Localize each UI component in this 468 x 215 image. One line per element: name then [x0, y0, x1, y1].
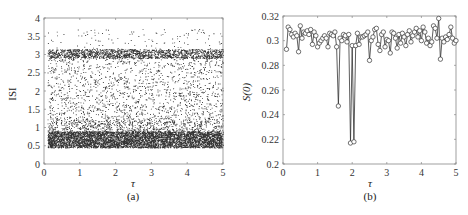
data-point-marker	[435, 36, 439, 40]
data-point-marker	[416, 35, 420, 39]
x-tick-label: 4	[419, 167, 424, 178]
x-tick-label: 1	[77, 167, 82, 178]
data-point-marker	[447, 32, 451, 36]
data-point-marker	[430, 40, 434, 44]
data-point-marker	[288, 27, 292, 31]
data-point-marker	[374, 26, 378, 30]
data-point-marker	[378, 48, 382, 52]
data-point-marker	[404, 43, 408, 47]
data-point-marker	[395, 46, 399, 50]
y-tick-label: 3.5	[28, 31, 41, 42]
x-tick-label: 0	[281, 167, 286, 178]
x-tick-label: 5	[454, 167, 459, 178]
y-tick-label: 4	[35, 13, 40, 24]
scatter-dots	[48, 29, 224, 148]
data-point-marker	[334, 45, 338, 49]
scatter-points	[48, 29, 224, 148]
data-point-marker	[352, 140, 356, 144]
data-point-marker	[386, 38, 390, 42]
data-point-marker	[421, 25, 425, 29]
data-point-marker	[419, 38, 423, 42]
data-point-marker	[398, 41, 402, 45]
data-point-marker	[371, 35, 375, 39]
y-tick-label: 3	[35, 49, 40, 60]
data-point-marker	[324, 36, 328, 40]
y-tick-label: 0.26	[262, 85, 280, 96]
data-point-marker	[295, 34, 299, 38]
y-tick-label: 1.5	[28, 104, 41, 115]
y-tick-label: 0.24	[262, 109, 280, 120]
x-tick-label: 2	[113, 167, 118, 178]
x-tick-label: 2	[350, 167, 355, 178]
y-tick-label: 0.3	[267, 35, 280, 46]
data-point-marker	[407, 29, 411, 33]
data-point-marker	[345, 40, 349, 44]
data-point-marker	[376, 42, 380, 46]
panel-b-s0-line: 012345 0.20.220.240.260.280.30.32 τ (b) …	[240, 11, 459, 204]
data-point-marker	[336, 104, 340, 108]
y-tick-label: 2	[35, 86, 40, 97]
data-point-marker	[437, 16, 441, 20]
figure: 012345 00.511.522.533.54 τ (a) ISI 01234…	[0, 0, 468, 215]
data-point-marker	[393, 36, 397, 40]
data-point-marker	[438, 57, 442, 61]
x-tick-label: 1	[315, 167, 320, 178]
x-tick-label: 3	[384, 167, 389, 178]
y-axis-label: ISI	[6, 87, 18, 101]
data-point-marker	[284, 47, 288, 51]
y-tick-label: 0.2	[267, 159, 280, 170]
data-point-marker	[449, 25, 453, 29]
data-point-marker	[433, 26, 437, 30]
data-point-marker	[366, 30, 370, 34]
y-tick-label: 1	[35, 122, 40, 133]
data-point-marker	[367, 58, 371, 62]
data-point-marker	[426, 36, 430, 40]
y-tick-label: 0.32	[262, 11, 280, 22]
data-point-marker	[298, 24, 302, 28]
data-point-marker	[355, 31, 359, 35]
data-point-marker	[333, 30, 337, 34]
data-point-marker	[445, 37, 449, 41]
y-tick-label: 0.28	[262, 60, 280, 71]
data-point-marker	[423, 30, 427, 34]
data-point-marker	[314, 34, 318, 38]
data-point-marker	[454, 38, 458, 42]
data-point-marker	[392, 31, 396, 35]
x-axis-label: τ	[131, 177, 136, 189]
data-point-marker	[383, 45, 387, 49]
panel-label: (a)	[127, 190, 140, 203]
x-axis-ticks: 012345	[42, 18, 226, 178]
y-tick-label: 0.22	[262, 134, 280, 145]
data-point-marker	[296, 50, 300, 54]
data-point-marker	[310, 42, 314, 46]
data-point-marker	[417, 29, 421, 33]
x-axis-label: τ	[368, 177, 373, 189]
data-point-marker	[347, 32, 351, 36]
data-point-marker	[340, 38, 344, 42]
x-tick-label: 0	[42, 167, 47, 178]
data-point-marker	[326, 45, 330, 49]
x-tick-label: 4	[185, 167, 190, 178]
panel-a-isi-scatter: 012345 00.511.522.533.54 τ (a) ISI	[6, 13, 226, 204]
y-tick-label: 2.5	[28, 67, 41, 78]
data-point-marker	[409, 40, 413, 44]
y-tick-label: 0	[35, 159, 40, 170]
y-tick-label: 0.5	[28, 140, 41, 151]
data-point-marker	[307, 32, 311, 36]
data-point-marker	[381, 30, 385, 34]
x-tick-label: 3	[149, 167, 154, 178]
x-tick-label: 5	[221, 167, 226, 178]
data-point-marker	[388, 51, 392, 55]
data-point-marker	[300, 36, 304, 40]
y-axis-label: S(0)	[240, 83, 253, 102]
data-point-marker	[357, 42, 361, 46]
panel-label: (b)	[364, 190, 377, 203]
